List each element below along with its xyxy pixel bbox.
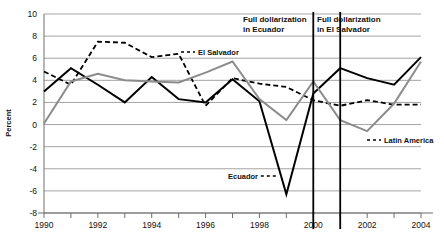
event-label-full-dollarization-ecuador-line2: in Ecuador: [243, 25, 284, 34]
y-tick-label--6: -6: [29, 186, 37, 196]
y-tick-label-0: 0: [32, 120, 37, 130]
x-tick-label-1996: 1996: [196, 220, 215, 230]
latin-america-label: Latin America: [384, 136, 434, 145]
y-tick-label-6: 6: [32, 53, 37, 63]
y-axis-title: Percent: [4, 109, 13, 137]
chart-canvas: 1086420-2-4-6-8 199019921994199619982000…: [0, 0, 444, 243]
x-tick-label-2002: 2002: [358, 220, 377, 230]
event-label-full-dollarization-el-salvador: Full dollarization: [317, 15, 381, 24]
x-tick-label-1998: 1998: [250, 220, 269, 230]
x-tick-label-1990: 1990: [35, 220, 54, 230]
event-label-full-dollarization-ecuador: Full dollarization: [243, 15, 307, 24]
y-tick-label--2: -2: [29, 142, 37, 152]
event-label-full-dollarization-el-salvador-line2: in El Salvador: [317, 25, 370, 34]
y-tick-label-4: 4: [32, 75, 37, 85]
x-tick-label-2004: 2004: [412, 220, 431, 230]
el-salvador-label: El Salvador: [198, 48, 239, 57]
ecuador-label: Ecuador: [228, 172, 258, 181]
y-tick-label-10: 10: [28, 9, 38, 19]
x-tick-label-1994: 1994: [142, 220, 161, 230]
y-tick-label-2: 2: [32, 97, 37, 107]
x-tick-label-1992: 1992: [88, 220, 107, 230]
y-tick-label--8: -8: [29, 208, 37, 218]
y-tick-label--4: -4: [29, 164, 37, 174]
economic-growth-line-chart: 1086420-2-4-6-8 199019921994199619982000…: [0, 0, 444, 243]
y-tick-label-8: 8: [32, 31, 37, 41]
